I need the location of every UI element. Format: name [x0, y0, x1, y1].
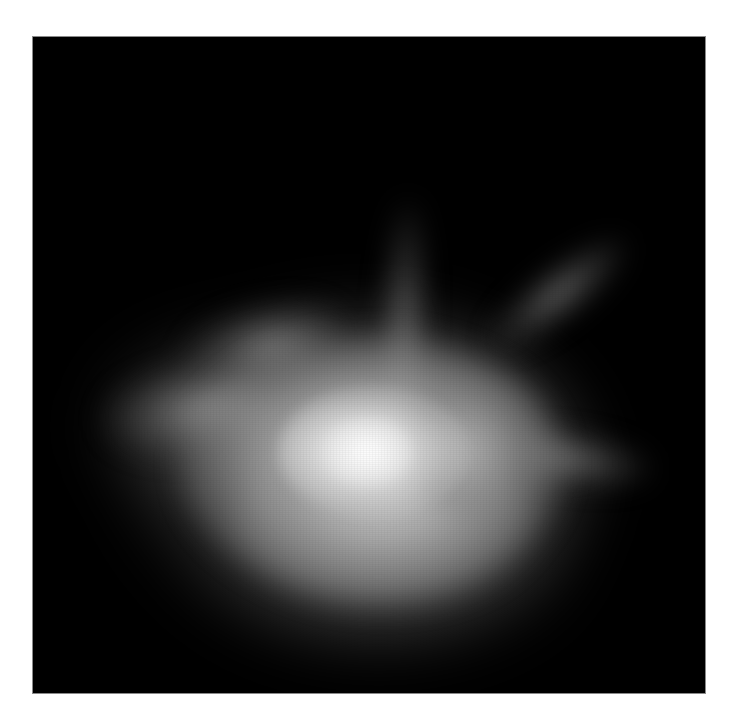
micrograph-frame	[33, 37, 705, 693]
image-page	[0, 0, 735, 716]
cell-bright-core	[33, 37, 705, 693]
